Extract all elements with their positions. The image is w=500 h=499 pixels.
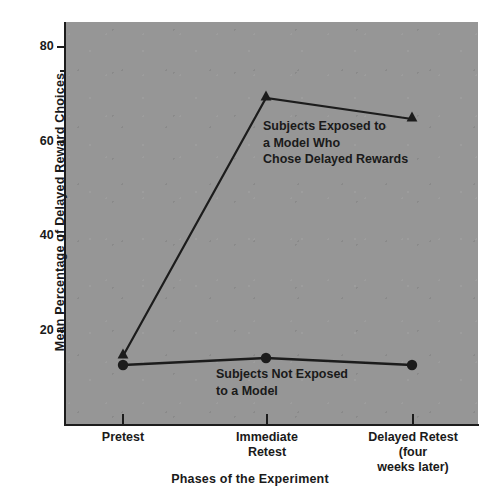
- chart-figure: 80 60 40 20 Pretest Immediate Retest Del…: [0, 0, 500, 499]
- x-tick-mark-delayed-retest: [412, 414, 414, 425]
- annotation-subjects-not-exposed: Subjects Not Exposed to a Model: [216, 366, 348, 399]
- plot-paper-texture: [65, 22, 478, 425]
- x-tick-mark-immediate-retest: [266, 414, 268, 425]
- x-tick-label-delayed-retest: Delayed Retest (four weeks later): [333, 430, 493, 475]
- y-tick-label-20: 20: [14, 323, 54, 337]
- y-axis-title: Mean Percentage of Delayed Reward Choice…: [53, 52, 67, 372]
- x-tick-label-pretest: Pretest: [43, 430, 203, 445]
- y-tick-label-60: 60: [14, 134, 54, 148]
- x-tick-mark-pretest: [122, 414, 124, 425]
- annotation-subjects-exposed: Subjects Exposed to a Model Who Chose De…: [263, 118, 408, 168]
- y-tick-label-80: 80: [14, 39, 54, 53]
- x-axis-line: [64, 424, 479, 426]
- y-tick-label-40: 40: [14, 228, 54, 242]
- x-tick-label-immediate-retest: Immediate Retest: [187, 430, 347, 460]
- y-tick-mark-80: [57, 46, 66, 48]
- x-axis-title: Phases of the Experiment: [0, 472, 500, 486]
